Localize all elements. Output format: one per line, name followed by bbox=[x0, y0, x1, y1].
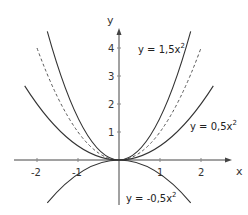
y-axis-label: y bbox=[107, 14, 114, 27]
x-axis-label: x bbox=[236, 165, 243, 178]
y-tick-label: 4 bbox=[108, 43, 114, 54]
label-1.5x2: y = 1,5x2 bbox=[138, 42, 185, 55]
label-neg-0.5x2: y = -0,5x2 bbox=[126, 191, 177, 204]
x-axis-arrow-icon bbox=[225, 158, 232, 163]
y-tick-label: 1 bbox=[108, 127, 114, 138]
x-tick-label: 2 bbox=[198, 167, 204, 178]
y-axis-arrow-icon bbox=[117, 28, 122, 35]
x-tick-label: -2 bbox=[31, 167, 41, 178]
y-tick-label: 3 bbox=[108, 71, 114, 82]
parabola-chart: -2 -1 1 2 1 2 3 4 x y y = 1,5x2 y = 0,5x… bbox=[0, 0, 248, 215]
y-tick-label: 2 bbox=[108, 99, 114, 110]
label-0.5x2: y = 0,5x2 bbox=[190, 119, 237, 132]
